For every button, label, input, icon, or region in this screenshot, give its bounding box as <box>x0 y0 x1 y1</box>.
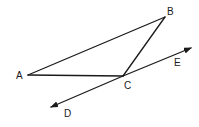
label-a: A <box>16 70 23 81</box>
label-b: B <box>167 6 174 17</box>
segment-ac <box>28 75 123 76</box>
label-e: E <box>174 57 181 68</box>
triangle-diagram: A B C D E <box>0 0 199 127</box>
label-c: C <box>124 80 131 91</box>
ray-cd-arrow <box>51 76 123 107</box>
label-d: D <box>64 108 71 119</box>
